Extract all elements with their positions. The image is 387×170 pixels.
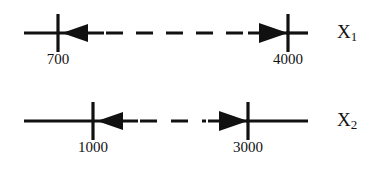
row-x2-upper-value-text: 3000 xyxy=(233,139,263,155)
row-x2-geometry xyxy=(24,102,308,140)
row-x1-upper-value: 4000 xyxy=(273,52,303,67)
row-x1-label: X1 xyxy=(337,22,357,41)
row-x2-label-base: X xyxy=(337,109,351,130)
row-x1-lower-value-text: 700 xyxy=(47,51,70,67)
row-x2-lower-value-text: 1000 xyxy=(78,139,108,155)
row-x2-label: X2 xyxy=(337,110,357,129)
diagram-canvas: 700 4000 1000 3000 X1 X2 xyxy=(0,0,387,170)
interval-row-x2 xyxy=(0,0,387,170)
row-x2-label-subscript: 2 xyxy=(351,117,358,132)
row-x1-label-subscript: 1 xyxy=(351,29,358,44)
row-x2-lower-value: 1000 xyxy=(78,140,108,155)
row-x1-label-base: X xyxy=(337,21,351,42)
row-x2-lower-arrowhead xyxy=(97,112,123,130)
row-x1-lower-value: 700 xyxy=(47,52,70,67)
row-x1-upper-value-text: 4000 xyxy=(273,51,303,67)
row-x2-upper-arrowhead xyxy=(219,111,248,131)
row-x2-upper-value: 3000 xyxy=(233,140,263,155)
